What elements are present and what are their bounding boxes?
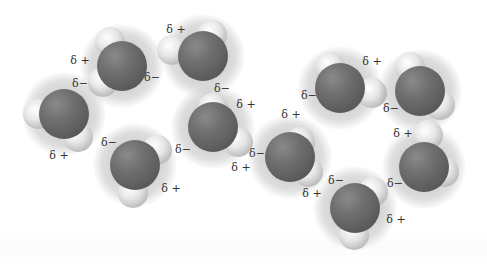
- partial-positive-label: δ +: [393, 128, 412, 139]
- partial-positive-label: δ +: [70, 55, 89, 66]
- partial-negative-label: δ−: [387, 178, 403, 189]
- partial-negative-label: δ−: [144, 72, 160, 83]
- oxygen-atom: [178, 31, 228, 81]
- partial-negative-label: δ−: [249, 148, 265, 159]
- partial-negative-label: δ−: [328, 175, 344, 186]
- water-hydrogen-bonding-diagram: δ +δ−δ−δ +δ−δ +δ−δ +δ +δ−δ +δ +δ−δ +δ +δ…: [0, 0, 487, 267]
- partial-positive-label: δ +: [231, 162, 250, 173]
- oxygen-atom: [188, 102, 238, 152]
- background-band: [0, 232, 487, 267]
- partial-positive-label: δ +: [302, 188, 321, 199]
- oxygen-atom: [110, 140, 160, 190]
- oxygen-atom: [330, 183, 380, 233]
- partial-positive-label: δ +: [386, 214, 405, 225]
- partial-positive-label: δ +: [49, 150, 68, 161]
- partial-negative-label: δ−: [301, 90, 317, 101]
- partial-negative-label: δ−: [214, 83, 230, 94]
- partial-negative-label: δ−: [101, 137, 117, 148]
- partial-negative-label: δ−: [383, 103, 399, 114]
- oxygen-atom: [39, 89, 89, 139]
- oxygen-atom: [399, 142, 449, 192]
- partial-positive-label: δ +: [161, 183, 180, 194]
- oxygen-atom: [315, 63, 365, 113]
- partial-positive-label: δ +: [166, 24, 185, 35]
- partial-negative-label: δ−: [175, 144, 191, 155]
- partial-positive-label: δ +: [236, 99, 255, 110]
- oxygen-atom: [97, 41, 147, 91]
- oxygen-atom: [265, 132, 315, 182]
- partial-positive-label: δ +: [281, 109, 300, 120]
- partial-negative-label: δ−: [72, 78, 88, 89]
- partial-positive-label: δ +: [362, 56, 381, 67]
- oxygen-atom: [395, 66, 445, 116]
